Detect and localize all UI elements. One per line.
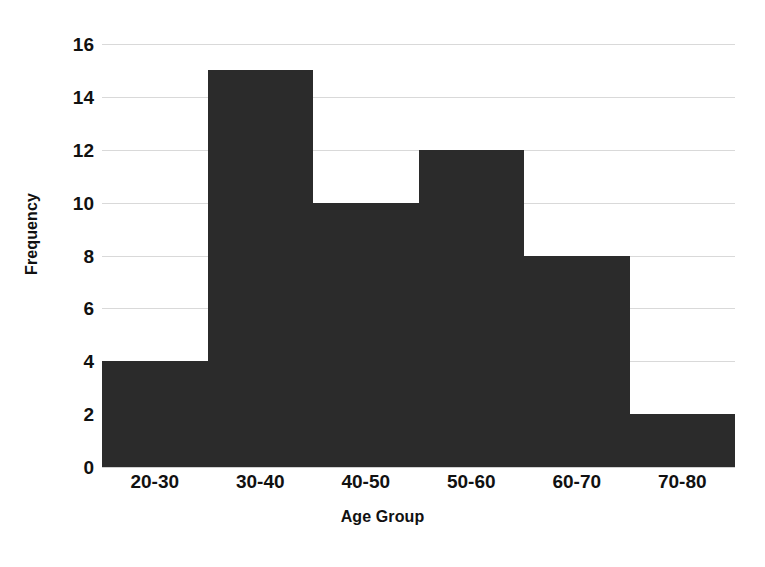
y-axis-tick-label: 4 (50, 352, 94, 371)
y-axis-tick-label: 14 (50, 87, 94, 106)
histogram-chart: Frequency 0246810121416 20-3030-4040-505… (0, 0, 765, 567)
y-axis-tick-label: 0 (50, 458, 94, 477)
bars-layer (102, 44, 735, 467)
x-axis-tick-label: 20-30 (130, 472, 179, 493)
x-axis-tick-label: 40-50 (341, 472, 390, 493)
y-axis-tick-label: 8 (50, 246, 94, 265)
x-axis-tick-label: 70-80 (658, 472, 707, 493)
bar (208, 70, 314, 467)
y-axis-tick-label: 10 (50, 193, 94, 212)
x-axis-tick-label: 50-60 (447, 472, 496, 493)
x-axis-tick-label: 30-40 (236, 472, 285, 493)
bar (524, 256, 630, 468)
x-axis-tick-label: 60-70 (552, 472, 601, 493)
bar (630, 414, 736, 467)
x-axis-tick-labels: 20-3030-4040-5050-6060-7070-80 (102, 472, 735, 502)
bar (102, 361, 208, 467)
bar (313, 203, 419, 467)
y-axis-tick-label: 16 (50, 35, 94, 54)
y-axis-tick-labels: 0246810121416 (48, 0, 94, 567)
y-axis-tick-label: 6 (50, 299, 94, 318)
y-axis-tick-label: 2 (50, 405, 94, 424)
gridline (102, 467, 735, 468)
y-axis-title-label: Frequency (23, 193, 41, 275)
x-axis-title: Age Group (0, 508, 765, 526)
plot-area (102, 44, 735, 467)
bar (419, 150, 525, 467)
y-axis-tick-label: 12 (50, 140, 94, 159)
